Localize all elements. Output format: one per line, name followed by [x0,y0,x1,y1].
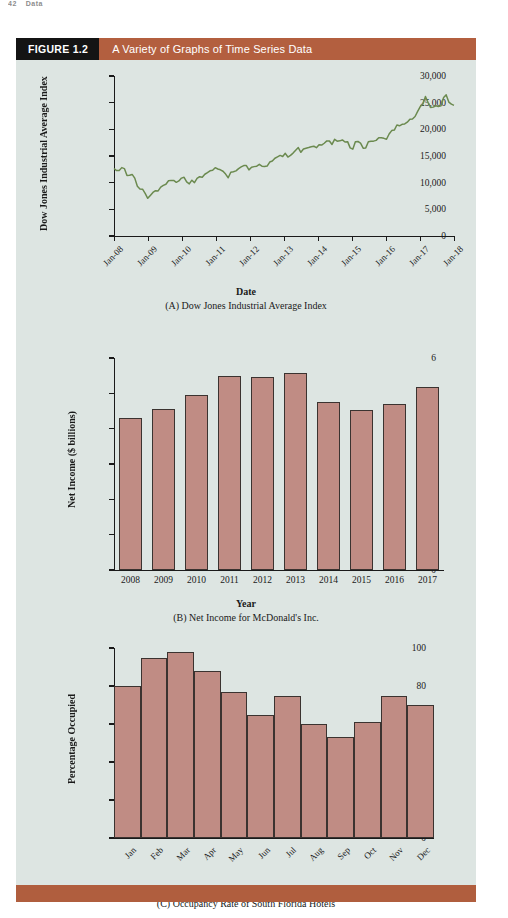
chart-a-xtick-label: Jan-16 [373,244,397,268]
chart-a-xtick-mark [386,236,387,241]
chart-c-xtick-label: Dec [414,845,431,862]
chart-c-ytick-label: 100 [412,643,426,653]
chart-b-xtick-label: 2008 [121,575,140,585]
chart-b-bar [152,409,175,570]
chart-a-ylabel: Dow Jones Industrial Average Index [38,74,49,234]
chart-b-xtick-label: 2016 [385,575,404,585]
chart-b-ytick-mark [109,569,114,570]
chart-c-xtick-label: Sep [335,845,352,862]
chart-a-xtick-mark [182,236,183,241]
chart-c-xtick-label: Jul [284,845,299,860]
chart-c-bar [194,671,221,838]
chart-a-xtick-label: Jan-12 [237,244,261,268]
chart-c-bar [141,658,168,839]
chart-a-xtick-label: Jan-13 [271,244,295,268]
chart-c-bar [221,692,248,838]
chart-b-xtick-label: 2017 [418,575,437,585]
chart-c-xtick-label: Nov [387,845,405,863]
chart-b-bar [317,402,340,570]
chart-b-ytick-mark [109,357,114,358]
chart-a-xtick-mark [420,236,421,241]
chart-b-xtick-label: 2015 [352,575,371,585]
chart-b-ytick-mark [109,393,114,394]
chart-a-xlabel: Date [16,286,476,297]
chart-mcdonalds-net-income: Net Income ($ billions) 0123456200820092… [16,350,476,635]
x-axis [114,570,444,571]
chart-c-bar [274,696,301,839]
chart-dow-jones: Dow Jones Industrial Average Index 05,00… [16,68,476,318]
chart-a-xtick-label: Jan-14 [305,244,329,268]
chart-a-line-path [114,95,454,198]
chart-c-xtick-label: May [226,845,245,864]
chart-b-bar [251,377,274,570]
chart-c-xtick-label: Feb [148,845,165,862]
chart-c-bar [167,652,194,838]
figure-bottom-bar [16,885,476,902]
chart-b-xtick-label: 2010 [187,575,206,585]
chart-a-xtick-label: Jan-15 [339,244,363,268]
chart-b-xtick-label: 2013 [286,575,305,585]
y-axis [114,358,115,570]
figure-title: A Variety of Graphs of Time Series Data [99,38,476,60]
chart-c-bar [381,696,408,839]
chart-b-xtick-label: 2011 [220,575,239,585]
chart-b-bar [383,404,406,570]
chart-c-xtick-label: Mar [174,845,192,863]
chart-a-line-series [114,76,454,236]
chart-a-xtick-label: Jan-09 [135,244,159,268]
chart-a-xtick-mark [318,236,319,241]
figure-panel: FIGURE 1.2 A Variety of Graphs of Time S… [16,38,476,902]
chart-a-xtick-mark [250,236,251,241]
chart-a-xtick-mark [284,236,285,241]
chart-b-ytick-mark [109,428,114,429]
chart-a-xtick-mark [114,236,115,241]
chart-a-xtick-mark [216,236,217,241]
chart-c-bar [327,737,354,838]
chart-b-bar [284,373,307,571]
chart-c-ytick-mark [109,647,114,648]
chart-b-xlabel: Year [16,598,476,609]
chart-a-caption: (A) Dow Jones Industrial Average Index [16,300,476,311]
chart-c-bar [247,715,274,839]
chart-a-xtick-label: Jan-17 [407,244,431,268]
chart-b-ylabel: Net Income ($ billions) [66,360,77,560]
chart-b-bar [350,410,373,570]
chart-b-ytick-mark [109,534,114,535]
chart-a-xtick-label: Jan-11 [203,244,227,268]
chart-a-xtick-label: Jan-10 [169,244,193,268]
chart-c-bar [301,724,328,838]
chart-a-xtick-label: Jan-08 [101,244,125,268]
chart-b-xtick-label: 2009 [154,575,173,585]
chart-c-bar [354,722,381,838]
chart-hotel-occupancy: Percentage Occupied 020406080100JanFebMa… [16,640,476,890]
chart-c-bar [407,705,434,838]
chart-c-xtick-label: Apr [201,845,218,862]
chart-c-xtick-label: Jan [123,845,139,861]
chart-c-bar [114,686,141,838]
chart-c-ytick-label: 80 [417,681,427,691]
chart-b-xtick-label: 2014 [319,575,338,585]
chart-c-xtick-label: Aug [307,845,325,863]
figure-title-bar: FIGURE 1.2 A Variety of Graphs of Time S… [16,38,476,60]
chart-b-xtick-label: 2012 [253,575,272,585]
chart-b-bar [185,395,208,570]
chart-a-xtick-label: Jan-18 [441,244,465,268]
chart-a-xtick-mark [148,236,149,241]
x-axis [114,838,434,839]
chart-c-xtick-label: Jun [256,845,272,861]
page-header-text: Data [26,0,43,7]
chart-c-xtick-label: Oct [362,845,378,861]
page-number: 42 [8,0,17,7]
chart-b-ytick-mark [109,463,114,464]
chart-a-xtick-mark [352,236,353,241]
chart-c-ylabel: Percentage Occupied [66,654,77,824]
chart-b-bar [416,387,439,570]
chart-b-bar [119,418,142,570]
chart-a-xtick-mark [454,236,455,241]
chart-b-bar [218,376,241,570]
chart-b-ytick-label: 6 [431,353,436,363]
chart-b-ytick-mark [109,499,114,500]
page-header: 42Data [8,0,43,7]
figure-number-tag: FIGURE 1.2 [16,38,99,60]
chart-b-caption: (B) Net Income for McDonald's Inc. [16,612,476,623]
